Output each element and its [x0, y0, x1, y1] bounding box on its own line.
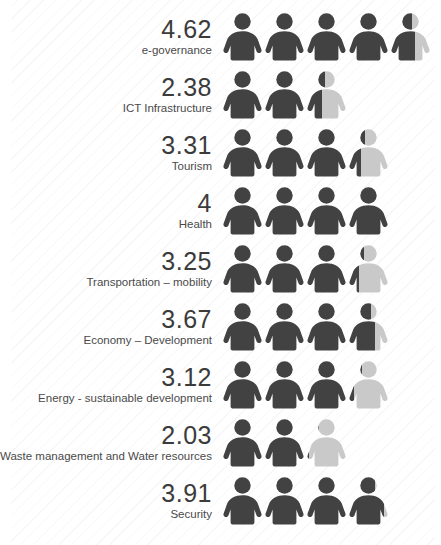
person-icon [264, 128, 305, 178]
rating-category-label: Health [0, 219, 212, 231]
rating-category-label: Tourism [0, 161, 212, 173]
rating-row: 3.31Tourism [0, 124, 441, 182]
person-icon [306, 186, 347, 236]
rating-value: 4.62 [0, 17, 212, 42]
person-icon [264, 302, 305, 352]
rating-category-label: Security [0, 509, 212, 521]
rating-row: 3.67Economy – Development [0, 298, 441, 356]
person-icon [222, 128, 263, 178]
rating-row: 2.38ICT Infrastructure [0, 66, 441, 124]
rating-row: 3.91Security [0, 472, 441, 530]
person-icon [222, 186, 263, 236]
row-labels: 3.12Energy - sustainable development [0, 365, 222, 405]
rating-value: 2.38 [0, 75, 212, 100]
person-icon [222, 302, 263, 352]
person-icon [348, 244, 389, 294]
row-labels: 4.62e-governance [0, 17, 222, 57]
rating-value: 3.25 [0, 249, 212, 274]
person-icon [306, 70, 347, 120]
pictogram-group [222, 360, 441, 410]
rating-category-label: Transportation – mobility [0, 277, 212, 289]
person-icon [222, 244, 263, 294]
rating-category-label: Waste management and Water resources [0, 451, 212, 463]
person-icon [348, 302, 389, 352]
pictogram-infographic: 4.62e-governance2.38ICT Infrastructure3.… [0, 0, 441, 545]
person-icon [306, 360, 347, 410]
row-labels: 3.31Tourism [0, 133, 222, 173]
pictogram-group [222, 418, 441, 468]
rating-value: 3.67 [0, 307, 212, 332]
person-icon [222, 476, 263, 526]
pictogram-group [222, 12, 441, 62]
pictogram-group [222, 70, 441, 120]
rating-category-label: Energy - sustainable development [0, 393, 212, 405]
rating-value: 4 [0, 191, 212, 216]
row-labels: 2.38ICT Infrastructure [0, 75, 222, 115]
rating-row: 4Health [0, 182, 441, 240]
pictogram-group [222, 128, 441, 178]
person-icon [264, 476, 305, 526]
person-icon [264, 186, 305, 236]
person-icon [348, 128, 389, 178]
person-icon [306, 302, 347, 352]
rating-value: 3.31 [0, 133, 212, 158]
pictogram-group [222, 244, 441, 294]
person-icon [348, 12, 389, 62]
person-icon [222, 360, 263, 410]
rating-value: 2.03 [0, 423, 212, 448]
person-icon [306, 128, 347, 178]
row-labels: 3.25Transportation – mobility [0, 249, 222, 289]
person-icon [264, 360, 305, 410]
row-labels: 3.67Economy – Development [0, 307, 222, 347]
person-icon [348, 186, 389, 236]
pictogram-group [222, 302, 441, 352]
person-icon [306, 418, 347, 468]
person-icon [222, 418, 263, 468]
rating-value: 3.12 [0, 365, 212, 390]
person-icon [306, 244, 347, 294]
person-icon [348, 476, 389, 526]
rating-value: 3.91 [0, 481, 212, 506]
pictogram-group [222, 186, 441, 236]
person-icon [390, 12, 431, 62]
row-labels: 3.91Security [0, 481, 222, 521]
rating-row: 2.03Waste management and Water resources [0, 414, 441, 472]
rating-category-label: Economy – Development [0, 335, 212, 347]
rating-rows: 4.62e-governance2.38ICT Infrastructure3.… [0, 0, 441, 530]
person-icon [264, 12, 305, 62]
person-icon [222, 12, 263, 62]
rating-row: 3.25Transportation – mobility [0, 240, 441, 298]
rating-row: 4.62e-governance [0, 8, 441, 66]
person-icon [222, 70, 263, 120]
row-labels: 2.03Waste management and Water resources [0, 423, 222, 463]
rating-category-label: ICT Infrastructure [0, 103, 212, 115]
person-icon [306, 476, 347, 526]
person-icon [264, 418, 305, 468]
rating-category-label: e-governance [0, 45, 212, 57]
row-labels: 4Health [0, 191, 222, 231]
person-icon [264, 70, 305, 120]
person-icon [264, 244, 305, 294]
rating-row: 3.12Energy - sustainable development [0, 356, 441, 414]
pictogram-group [222, 476, 441, 526]
person-icon [306, 12, 347, 62]
person-icon [348, 360, 389, 410]
